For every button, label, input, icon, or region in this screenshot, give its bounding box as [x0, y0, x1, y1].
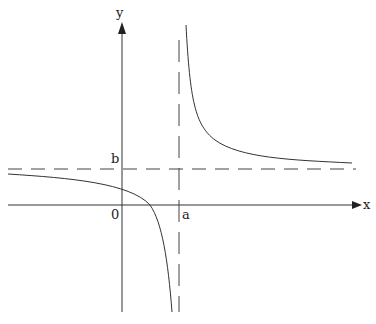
y-axis-arrow-icon — [118, 22, 126, 34]
x-axis-label: x — [363, 198, 370, 211]
hyperbola-figure: y x 0 a b — [0, 0, 376, 324]
left-branch-curve — [8, 174, 172, 312]
origin-label: 0 — [111, 208, 119, 221]
right-branch-curve — [186, 25, 352, 163]
x-axis-arrow-icon — [352, 201, 362, 209]
asymptote-a-label: a — [182, 208, 190, 221]
y-axis-label: y — [116, 6, 123, 19]
graph-canvas — [0, 0, 376, 324]
asymptote-b-label: b — [111, 152, 119, 165]
